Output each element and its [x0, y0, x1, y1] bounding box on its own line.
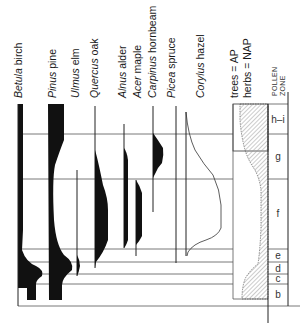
- zone-label-g: g: [275, 151, 281, 162]
- curve-carpinus: [153, 133, 163, 178]
- pollen-zone-header-line1: POLLEN: [271, 67, 278, 96]
- curve-alnus: [124, 148, 128, 248]
- taxon-label-carpinus: Carpinus hornbeam: [146, 6, 158, 98]
- nap-herbs-area: [240, 104, 268, 299]
- taxon-label-corylus: Corylus hazel: [194, 34, 206, 98]
- taxon-label-acer: Acer maple: [131, 45, 143, 99]
- taxon-label-picea: Picea spruce: [165, 37, 177, 98]
- taxon-label-pinus: Pinus pine: [46, 49, 58, 98]
- curve-pinus: [48, 104, 72, 300]
- taxon-label-betula: Betula birch: [12, 42, 24, 98]
- curve-betula: [18, 104, 42, 300]
- taxon-label-quercus: Quercus oak: [88, 38, 100, 98]
- curve-acer: [136, 180, 142, 245]
- zone-label-c: c: [276, 273, 281, 284]
- pollen-zone-header-line2: ZONE: [279, 75, 286, 96]
- zone-label-hi: h–i: [271, 114, 284, 125]
- zone-label-f: f: [277, 208, 280, 219]
- nap-legend-label: herbs = NAP: [241, 38, 253, 98]
- pollen-diagram: Betula birch Pinus pine Ulmus elm Quercu…: [0, 0, 300, 323]
- curve-quercus: [95, 150, 108, 268]
- taxon-label-ulmus: Ulmus elm: [69, 48, 81, 98]
- taxon-labels: Betula birch Pinus pine Ulmus elm Quercu…: [12, 6, 286, 99]
- pollen-zone-column: h–i g f e d c b: [268, 92, 288, 323]
- ap-legend-label: trees = AP: [228, 49, 240, 98]
- zone-label-e: e: [275, 250, 281, 261]
- zone-label-b: b: [275, 289, 281, 300]
- curve-ulmus: [77, 255, 80, 276]
- taxon-label-alnus: Alnus alder: [116, 45, 128, 99]
